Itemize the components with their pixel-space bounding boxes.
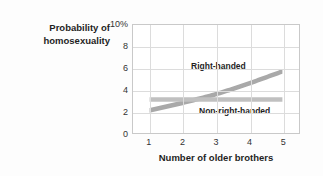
x-axis-tick-label: 4 (240, 137, 260, 147)
x-axis-tick-label: 2 (172, 137, 192, 147)
gridline-vertical (284, 25, 285, 133)
y-axis-title: Probability of homosexuality (14, 22, 110, 47)
gridline-horizontal (133, 91, 299, 92)
x-axis-title: Number of older brothers (110, 152, 322, 163)
gridline-horizontal (133, 113, 299, 114)
y-axis-tick-labels: 10%86420 (98, 24, 128, 134)
gridline-vertical (217, 25, 218, 133)
chart-figure: Probability of homosexuality 10%86420 Ri… (0, 0, 323, 176)
gridline-horizontal (133, 69, 299, 70)
y-axis-tick-label: 2 (98, 107, 128, 117)
gridline-vertical (251, 25, 252, 133)
y-axis-tick-label: 6 (98, 63, 128, 73)
x-axis-tick-labels: 12345 (132, 137, 300, 149)
plot-area: Right-handed Non-right-handed (132, 24, 300, 134)
y-axis-title-line-2: homosexuality (14, 35, 110, 48)
y-axis-tick-label: 10% (98, 19, 128, 29)
gridline-vertical (183, 25, 184, 133)
series-label-non-right-handed: Non-right-handed (199, 106, 270, 116)
gridline-vertical (150, 25, 151, 133)
y-axis-title-line-1: Probability of (14, 22, 110, 35)
x-axis-tick-label: 3 (206, 137, 226, 147)
x-axis-tick-label: 1 (139, 137, 159, 147)
x-axis-tick-label: 5 (273, 137, 293, 147)
series-layer (133, 25, 299, 133)
y-axis-tick-label: 0 (98, 129, 128, 139)
y-axis-tick-label: 4 (98, 85, 128, 95)
series-band-non-right-handed (150, 97, 283, 101)
y-axis-tick-label: 8 (98, 41, 128, 51)
gridline-horizontal (133, 47, 299, 48)
